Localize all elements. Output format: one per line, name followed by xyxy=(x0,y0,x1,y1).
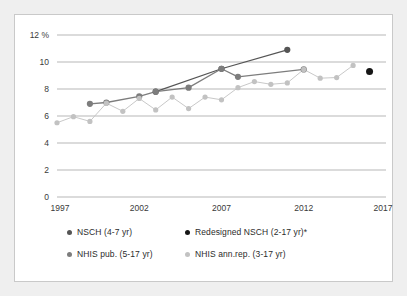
data-point-nhis-ann-rep-3-17-yr-12 xyxy=(252,79,257,84)
legend-item-nhis-annrep[interactable]: NHIS ann.rep. (3-17 yr) xyxy=(185,249,286,259)
gridline-group xyxy=(57,35,386,197)
x-tick-label-2017: 2017 xyxy=(374,203,393,213)
legend-dot-nsch xyxy=(67,230,72,235)
data-point-nhis-ann-rep-3-17-yr-2 xyxy=(87,119,92,124)
series-line-group xyxy=(57,50,353,123)
data-point-nhis-ann-rep-3-17-yr-6 xyxy=(153,107,158,112)
chart-plot-area: 024681012 % 19972002200720122017 xyxy=(15,15,394,283)
data-point-nhis-ann-rep-3-17-yr-9 xyxy=(202,95,207,100)
x-tick-label-2012: 2012 xyxy=(294,203,313,213)
legend-label-nsch: NSCH (4-7 yr) xyxy=(77,227,132,237)
chart-figure-panel: 024681012 % 19972002200720122017 NSCH (4… xyxy=(14,14,393,282)
data-point-nhis-ann-rep-3-17-yr-0 xyxy=(54,120,59,125)
data-point-nhis-ann-rep-3-17-yr-18 xyxy=(351,63,356,68)
x-tick-label-2007: 2007 xyxy=(212,203,231,213)
data-point-nhis-pub-5-17-yr-5 xyxy=(218,66,224,72)
data-point-nhis-ann-rep-3-17-yr-5 xyxy=(137,96,142,101)
data-point-nhis-ann-rep-3-17-yr-8 xyxy=(186,106,191,111)
data-point-nhis-ann-rep-3-17-yr-11 xyxy=(235,85,240,90)
legend-dot-redesigned-nsch xyxy=(185,230,190,235)
legend-row-top: NSCH (4-7 yr) Redesigned NSCH (2-17 yr)* xyxy=(67,227,307,237)
data-point-nhis-ann-rep-3-17-yr-4 xyxy=(120,109,125,114)
legend-dot-nhis-annrep xyxy=(185,252,190,257)
data-point-nhis-ann-rep-3-17-yr-16 xyxy=(318,76,323,81)
data-point-nhis-ann-rep-3-17-yr-10 xyxy=(219,97,224,102)
data-point-nhis-ann-rep-3-17-yr-13 xyxy=(268,82,273,87)
data-point-nhis-ann-rep-3-17-yr-7 xyxy=(170,95,175,100)
data-point-nhis-ann-rep-3-17-yr-1 xyxy=(71,114,76,119)
data-point-nhis-pub-5-17-yr-0 xyxy=(87,101,93,107)
legend-item-nsch[interactable]: NSCH (4-7 yr) xyxy=(67,227,185,237)
y-tick-label-12: 12 % xyxy=(30,30,50,40)
legend-row-bottom: NHIS pub. (5-17 yr) NHIS ann.rep. (3-17 … xyxy=(67,249,286,259)
data-point-redesigned-nsch-2-17-yr-0 xyxy=(366,68,373,75)
x-tick-label-1997: 1997 xyxy=(51,203,70,213)
y-tick-label-6: 6 xyxy=(44,111,49,121)
chart-svg: 024681012 % 19972002200720122017 xyxy=(15,15,394,283)
legend-item-redesigned-nsch[interactable]: Redesigned NSCH (2-17 yr)* xyxy=(185,227,307,237)
legend-dot-nhis-pub xyxy=(67,252,72,257)
y-tick-label-8: 8 xyxy=(44,84,49,94)
legend-label-redesigned-nsch: Redesigned NSCH (2-17 yr)* xyxy=(195,227,307,237)
y-tick-label-10: 10 xyxy=(40,57,50,67)
legend-label-nhis-annrep: NHIS ann.rep. (3-17 yr) xyxy=(195,249,286,259)
x-axis-tick-label-group: 19972002200720122017 xyxy=(51,203,393,213)
x-tick-label-2002: 2002 xyxy=(130,203,149,213)
data-point-nsch-4-7-yr-2 xyxy=(284,47,290,53)
y-tick-label-2: 2 xyxy=(44,165,49,175)
data-point-nhis-pub-5-17-yr-6 xyxy=(235,74,241,80)
data-point-nhis-pub-5-17-yr-3 xyxy=(153,89,159,95)
legend-item-nhis-pub[interactable]: NHIS pub. (5-17 yr) xyxy=(67,249,185,259)
y-axis-tick-label-group: 024681012 % xyxy=(30,30,50,202)
y-tick-label-4: 4 xyxy=(44,138,49,148)
data-point-nhis-ann-rep-3-17-yr-15 xyxy=(301,67,306,72)
legend-label-nhis-pub: NHIS pub. (5-17 yr) xyxy=(77,249,153,259)
y-tick-label-0: 0 xyxy=(44,192,49,202)
series-point-group xyxy=(54,47,373,126)
data-point-nhis-ann-rep-3-17-yr-14 xyxy=(285,80,290,85)
data-point-nhis-ann-rep-3-17-yr-3 xyxy=(104,101,109,106)
data-point-nhis-pub-5-17-yr-4 xyxy=(186,85,192,91)
data-point-nhis-ann-rep-3-17-yr-17 xyxy=(334,75,339,80)
